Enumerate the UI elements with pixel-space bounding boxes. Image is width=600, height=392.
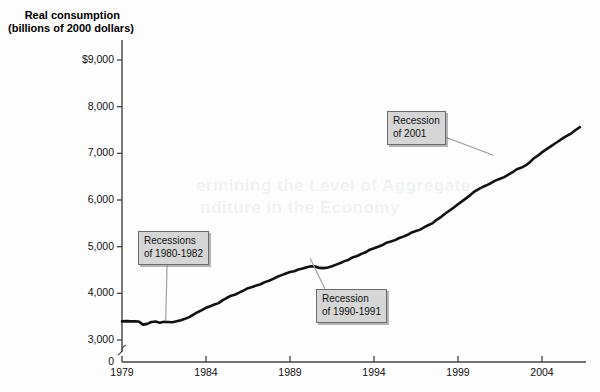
annotation-line2: of 2001	[393, 128, 440, 141]
y-axis-tick-label: 4,000	[88, 286, 114, 298]
y-axis-title-line2: (billions of 2000 dollars)	[8, 22, 120, 35]
y-axis-title: Real consumption (billions of 2000 dolla…	[8, 9, 120, 35]
chart-figure: ermining the Level of Aggregate nditure …	[0, 0, 600, 392]
x-axis-tick-label: 1984	[186, 366, 226, 378]
y-axis-title-line1: Real consumption	[8, 9, 120, 22]
y-axis-tick-label: 7,000	[88, 146, 114, 158]
y-axis-tick-label: 6,000	[88, 193, 114, 205]
annotation-line1: Recession	[393, 115, 440, 128]
annotation-recessions-1980-1982: Recessions of 1980-1982	[138, 231, 209, 265]
annotation-recession-2001: Recession of 2001	[387, 111, 446, 145]
annotation-recession-1990-1991: Recession of 1990-1991	[316, 289, 387, 323]
leader-1990-1991	[310, 258, 325, 289]
y-axis-tick-label: $9,000	[82, 53, 114, 65]
x-axis-tick-label: 1999	[438, 366, 478, 378]
y-axis-tick-label: 3,000	[88, 333, 114, 345]
annotation-line1: Recessions	[144, 235, 203, 248]
y-axis-tick-label: 5,000	[88, 240, 114, 252]
annotation-line2: of 1990-1991	[322, 306, 381, 319]
annotation-line1: Recession	[322, 293, 381, 306]
x-axis-tick-label: 1989	[270, 366, 310, 378]
annotation-line2: of 1980-1982	[144, 248, 203, 261]
x-axis-tick-label: 2004	[522, 366, 562, 378]
y-axis-tick-label: 8,000	[88, 100, 114, 112]
x-axis-tick-label: 1979	[102, 366, 142, 378]
x-axis-tick-label: 1994	[354, 366, 394, 378]
leader-2001	[445, 137, 493, 155]
